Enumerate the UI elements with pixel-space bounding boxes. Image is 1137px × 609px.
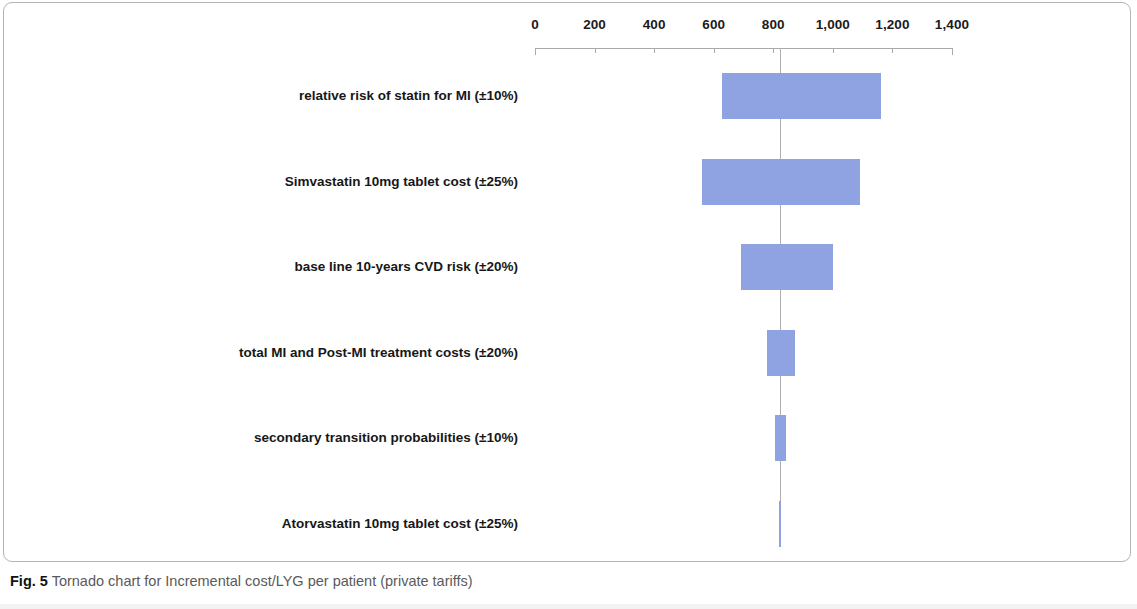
category-label: Simvastatin 10mg tablet cost (±25%) xyxy=(285,175,518,189)
x-axis-tick-label: 0 xyxy=(531,18,539,32)
x-axis-tick xyxy=(535,48,536,55)
x-axis-tick xyxy=(714,48,715,53)
x-axis-tick-label: 200 xyxy=(583,18,606,32)
figure-caption: Fig. 5 Tornado chart for Incremental cos… xyxy=(10,572,1110,590)
tornado-bar xyxy=(775,415,786,461)
x-axis-tick-label: 600 xyxy=(702,18,725,32)
page-bottom-edge xyxy=(0,604,1137,609)
x-axis-tick-label: 800 xyxy=(762,18,785,32)
tornado-bar xyxy=(741,244,833,290)
base-case-reference-line xyxy=(780,48,781,546)
tornado-chart: 02004006008001,0001,2001,400relative ris… xyxy=(0,0,1137,560)
x-axis-tick xyxy=(833,48,834,53)
category-label: secondary transition probabilities (±10%… xyxy=(254,431,518,445)
x-axis-tick xyxy=(654,48,655,53)
tornado-bar xyxy=(722,73,881,119)
tornado-bar xyxy=(767,330,795,376)
x-axis-line xyxy=(535,48,952,49)
x-axis-tick-label: 1,200 xyxy=(875,18,909,32)
x-axis-tick-label: 1,400 xyxy=(935,18,969,32)
x-axis-tick xyxy=(595,48,596,53)
figure-root: 02004006008001,0001,2001,400relative ris… xyxy=(0,0,1137,609)
category-label: relative risk of statin for MI (±10%) xyxy=(299,89,518,103)
figure-caption-text: Tornado chart for Incremental cost/LYG p… xyxy=(48,573,473,589)
x-axis-tick xyxy=(773,48,774,53)
category-label: total MI and Post-MI treatment costs (±2… xyxy=(239,346,518,360)
tornado-bar xyxy=(702,159,860,205)
category-label: Atorvastatin 10mg tablet cost (±25%) xyxy=(282,517,518,531)
x-axis-tick xyxy=(892,48,893,53)
x-axis-tick xyxy=(952,48,953,55)
figure-caption-lead: Fig. 5 xyxy=(10,573,48,589)
x-axis-tick-label: 1,000 xyxy=(816,18,850,32)
tornado-bar xyxy=(779,501,782,547)
category-label: base line 10-years CVD risk (±20%) xyxy=(294,260,518,274)
x-axis-tick-label: 400 xyxy=(643,18,666,32)
